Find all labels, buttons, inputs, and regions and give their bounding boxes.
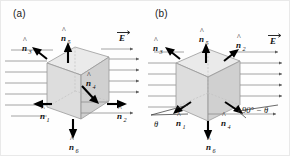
label-n3-b-sub: 3 (159, 48, 163, 55)
label-n6-b-sub: 6 (213, 147, 217, 154)
panel-b: (b) (146, 1, 290, 156)
label-ninety-minus-theta: 90° − θ (242, 105, 268, 115)
field-label-E-b: E (268, 34, 281, 46)
label-n4-a-base: n (86, 78, 91, 88)
label-n5-b-sub: 5 (206, 39, 209, 46)
label-n1-b-base: n (176, 118, 181, 128)
label-n2-b-sub: 2 (243, 45, 246, 52)
panel-b-diagram: E ^ n 3 ^ n 5 ^ n 2 ^ n 1 (146, 1, 290, 156)
label-n5-b-base: n (199, 34, 204, 44)
label-n4-b-sub: 4 (228, 123, 231, 130)
label-n1-a-base: n (40, 111, 45, 121)
label-n5-a: ^ n 5 (61, 26, 71, 45)
label-n3-a-base: n (22, 43, 27, 53)
label-n5-a-sub: 5 (68, 38, 71, 45)
figure-root: (a) (0, 0, 290, 156)
label-n5-a-base: n (61, 33, 66, 43)
label-n4-b-base: n (221, 118, 226, 128)
cube-b (176, 49, 240, 121)
label-n2-a-sub: 2 (124, 116, 127, 123)
label-n6-a: ^ n 6 (69, 135, 80, 154)
panel-a: (a) (1, 1, 146, 156)
panel-a-diagram: E ^ n 3 ^ n 5 ^ n 1 ^ n 2 (1, 1, 146, 156)
label-n1-a-sub: 1 (47, 116, 50, 123)
label-n2-b-base: n (236, 40, 241, 50)
label-theta: θ (154, 119, 158, 129)
label-n3-b-base: n (153, 43, 158, 53)
normal-vector-n2 (107, 100, 127, 108)
label-n6-b: ^ n 6 (206, 135, 217, 154)
field-label-E-b-text: E (269, 36, 276, 46)
label-n4-a-sub: 4 (93, 83, 96, 90)
label-n3-a-sub: 3 (28, 48, 32, 55)
label-n6-b-base: n (206, 142, 211, 152)
label-n6-a-sub: 6 (76, 147, 80, 154)
label-n2-b: ^ n 2 (236, 33, 246, 52)
normal-vector-n3 (165, 47, 180, 59)
field-lines-back (5, 50, 53, 116)
cube-a (47, 47, 109, 119)
label-n3-b: ^ n 3 (153, 36, 163, 55)
label-n1-b-sub: 1 (183, 123, 186, 130)
field-label-E-a: E (117, 31, 130, 43)
label-n5-b: ^ n 5 (199, 27, 209, 46)
label-n6-a-base: n (69, 142, 74, 152)
label-n3-a: ^ n 3 (22, 36, 32, 55)
label-n2-a-base: n (117, 111, 122, 121)
normal-vector-n3 (32, 47, 47, 59)
field-label-E-a-text: E (118, 33, 125, 43)
